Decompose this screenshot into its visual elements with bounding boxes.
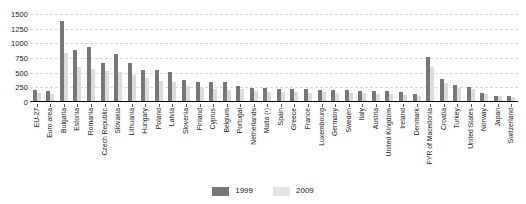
x-tick-mark — [417, 104, 418, 107]
x-axis-tick: Czech Republic — [98, 104, 112, 166]
x-axis-tick: Italy — [356, 104, 370, 166]
legend-label-2009: 2009 — [296, 187, 314, 195]
x-tick-mark — [444, 104, 445, 107]
x-tick-mark — [430, 104, 431, 107]
x-axis-tick-label: Estonia — [74, 108, 81, 131]
x-axis-tick-label: Netherlands — [250, 108, 257, 145]
legend-item-2009[interactable]: 2009 — [273, 187, 314, 196]
bar-group — [98, 14, 112, 102]
y-axis-tick-label: 1000 — [0, 40, 28, 48]
x-axis-tick: Romania — [84, 104, 98, 166]
bar-group — [44, 14, 58, 102]
bar-group — [288, 14, 302, 102]
x-axis-tick: Portugal — [233, 104, 247, 166]
x-axis-tick: Ireland — [396, 104, 410, 166]
bar-group — [423, 14, 437, 102]
x-axis-tick-label: Bulgaria — [61, 108, 68, 133]
bar-group — [301, 14, 315, 102]
bar-group — [396, 14, 410, 102]
x-tick-mark — [50, 104, 51, 107]
x-tick-mark — [511, 104, 512, 107]
x-axis-tick: Poland — [152, 104, 166, 166]
bar-2009 — [200, 88, 204, 102]
bar-group — [450, 14, 464, 102]
bar-2009 — [64, 53, 68, 102]
x-axis-tick: Bulgaria — [57, 104, 71, 166]
x-axis-tick-label: Greece — [291, 108, 298, 130]
bar-group — [491, 14, 505, 102]
x-axis-tick-label: Luxembourg — [318, 108, 325, 146]
x-axis-tick: Turkey — [450, 104, 464, 166]
x-tick-mark — [227, 104, 228, 107]
x-axis-tick: France — [301, 104, 315, 166]
bar-group — [125, 14, 139, 102]
bar-group — [179, 14, 193, 102]
bar-2009 — [457, 88, 461, 102]
legend-item-1999[interactable]: 1999 — [212, 187, 253, 196]
x-axis-tick-label: Malta (¹) — [264, 108, 271, 133]
legend-swatch-2009 — [273, 187, 290, 196]
x-axis-tick: Switzerland — [505, 104, 519, 166]
x-axis-tick: Luxembourg — [315, 104, 329, 166]
x-tick-mark — [322, 104, 323, 107]
y-axis-tick-label: 1250 — [0, 25, 28, 33]
x-axis-tick: Germany — [328, 104, 342, 166]
x-tick-mark — [335, 104, 336, 107]
x-tick-mark — [118, 104, 119, 107]
bar-group — [57, 14, 71, 102]
x-axis-tick-label: Cyprus — [210, 108, 217, 130]
bar-2009 — [118, 72, 122, 103]
x-axis-tick-label: Latvia — [169, 108, 176, 126]
x-axis-tick: Lithuania — [125, 104, 139, 166]
bar-2009 — [430, 67, 434, 102]
bar-2009 — [77, 67, 81, 102]
bar-group — [274, 14, 288, 102]
x-axis-tick: Croatia — [437, 104, 451, 166]
x-tick-mark — [64, 104, 65, 107]
x-tick-mark — [254, 104, 255, 107]
bar-group — [369, 14, 383, 102]
bar-group — [139, 14, 153, 102]
x-axis-tick: Japan — [491, 104, 505, 166]
x-axis-tick-label: France — [305, 108, 312, 129]
x-axis-tick-label: Czech Republic — [101, 108, 108, 156]
x-axis-tick-label: Hungary — [142, 108, 149, 134]
x-axis-tick: Spain — [274, 104, 288, 166]
x-axis-tick-label: FYR of Macedonia — [427, 108, 434, 164]
x-tick-mark — [403, 104, 404, 107]
x-tick-mark — [77, 104, 78, 107]
bar-chart: 1500125010007505002500 EU-27Euro areaBul… — [0, 0, 526, 204]
bar-group — [464, 14, 478, 102]
x-axis-tick: Estonia — [71, 104, 85, 166]
x-axis-tick: Finland — [193, 104, 207, 166]
bar-group — [193, 14, 207, 102]
x-axis-tick-label: United States — [467, 108, 474, 149]
x-axis-tick: Malta (¹) — [261, 104, 275, 166]
x-axis-tick: FYR of Macedonia — [423, 104, 437, 166]
x-tick-mark — [389, 104, 390, 107]
x-axis-tick: Cyprus — [206, 104, 220, 166]
x-tick-mark — [172, 104, 173, 107]
bar-group — [505, 14, 519, 102]
x-axis-tick-label: Spain — [278, 108, 285, 125]
x-tick-mark — [37, 104, 38, 107]
bar-2009 — [172, 82, 176, 102]
bar-group — [152, 14, 166, 102]
y-axis: 1500125010007505002500 — [0, 14, 28, 102]
x-tick-mark — [308, 104, 309, 107]
bar-group — [315, 14, 329, 102]
x-axis-tick: Austria — [369, 104, 383, 166]
x-axis-tick: EU-27 — [30, 104, 44, 166]
x-axis-tick: Euro area — [44, 104, 58, 166]
x-axis-tick-label: EU-27 — [33, 108, 40, 127]
y-axis-tick-label: 250 — [0, 84, 28, 92]
x-axis-tick-label: Germany — [332, 108, 339, 136]
x-axis-tick-label: Italy — [359, 108, 366, 120]
x-tick-mark — [240, 104, 241, 107]
x-axis-tick-label: Slovakia — [115, 108, 122, 134]
bar-2009 — [145, 78, 149, 102]
x-tick-mark — [200, 104, 201, 107]
bar-group — [383, 14, 397, 102]
x-tick-mark — [362, 104, 363, 107]
plot-area — [30, 14, 518, 102]
